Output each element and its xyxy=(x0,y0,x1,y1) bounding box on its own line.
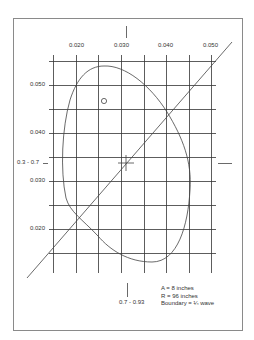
circle-marker xyxy=(101,98,106,103)
note-aperture: A = 8 inches xyxy=(161,285,214,293)
frame-border xyxy=(14,19,243,331)
bottom-center-label: 0.7 - 0.93 xyxy=(119,299,144,305)
note-boundary: Boundary = ¼ wave xyxy=(161,300,214,308)
diagonal-line xyxy=(27,42,232,278)
left-center-label: 0.3 - 0.7 xyxy=(17,159,39,165)
x-tick-label-0030: 0.030 xyxy=(114,42,129,48)
note-radius: R = 96 inches xyxy=(161,293,214,301)
grid-vertical-lines xyxy=(54,55,212,273)
x-tick-label-0050: 0.050 xyxy=(203,42,218,48)
y-tick-label-0050: 0.050 xyxy=(30,81,45,87)
y-tick-label-0020: 0.020 xyxy=(30,225,45,231)
y-tick-label-0040: 0.040 xyxy=(30,129,45,135)
x-tick-label-0040: 0.040 xyxy=(158,42,173,48)
y-tick-label-0030: 0.030 xyxy=(30,177,45,183)
x-tick-label-0020: 0.020 xyxy=(69,42,84,48)
diagram-svg xyxy=(0,0,254,340)
parameter-notes: A = 8 inches R = 96 inches Boundary = ¼ … xyxy=(161,285,214,308)
diagram-canvas: 0.020 0.030 0.040 0.050 0.050 0.040 0.03… xyxy=(0,0,254,340)
